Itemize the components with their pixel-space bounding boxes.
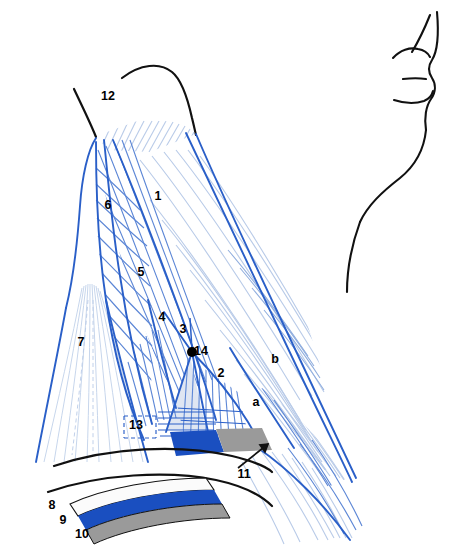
label-1: 1 — [155, 189, 162, 203]
label-b: b — [271, 352, 279, 366]
label-3: 3 — [180, 322, 187, 336]
label-6: 6 — [105, 198, 112, 212]
label-10: 10 — [75, 527, 89, 541]
label-4: 4 — [159, 310, 166, 324]
label-5: 5 — [138, 265, 145, 279]
figure-background — [0, 0, 459, 559]
mouth-line — [403, 78, 426, 79]
label-2: 2 — [218, 366, 225, 380]
label-11: 11 — [237, 467, 250, 481]
label-a: a — [253, 395, 261, 409]
figure-canvas: 1 2 3 4 5 6 7 8 9 10 11 12 13 14 a b — [0, 0, 459, 559]
label-12: 12 — [101, 89, 115, 103]
label-14: 14 — [194, 344, 208, 358]
label-7: 7 — [78, 335, 85, 349]
anatomical-figure: 1 2 3 4 5 6 7 8 9 10 11 12 13 14 a b — [0, 0, 459, 559]
label-9: 9 — [60, 513, 67, 527]
label-13: 13 — [129, 418, 143, 432]
label-8: 8 — [49, 498, 56, 512]
